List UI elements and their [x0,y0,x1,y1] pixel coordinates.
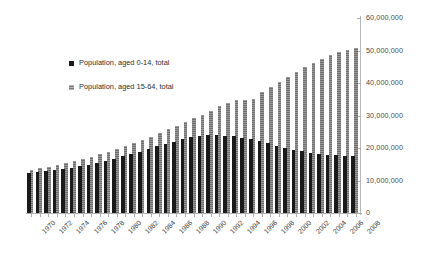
bar-group [121,18,130,213]
bar-aged-0-14 [309,153,313,213]
bar-group [343,18,352,213]
x-tick-label: 1984 [160,219,176,235]
bar-aged-0-14 [326,155,330,213]
bar-aged-0-14 [317,154,321,213]
bar-group [223,18,232,213]
y-tick-label: 20,000,000 [366,144,403,151]
legend-swatch-young-icon [69,61,74,66]
x-tick-label: 1976 [92,219,108,235]
y-tick-mark [357,213,361,214]
x-tick-mark [330,214,331,217]
bar-group [198,18,207,213]
bar-group [27,18,36,213]
x-tick-label: 1972 [58,219,74,235]
bar-aged-0-14 [351,156,355,213]
bar-group [275,18,284,213]
bar-group [232,18,241,213]
bar-group [155,18,164,213]
bar-group [112,18,121,213]
x-tick-mark [211,214,212,217]
x-tick-mark [339,214,340,217]
bar-group [326,18,335,213]
bar-aged-0-14 [87,165,91,213]
x-tick-mark [194,214,195,217]
bar-aged-0-14 [129,154,133,213]
bar-aged-0-14 [292,150,296,213]
bar-aged-0-14 [181,139,185,213]
y-tick-label: 0 [366,209,370,216]
legend-label-young: Population, aged 0-14, total [79,59,169,66]
x-tick-label: 1974 [75,219,91,235]
x-tick-mark [202,214,203,217]
bar-aged-0-14 [198,136,202,213]
bar-aged-0-14 [104,161,108,213]
bar-group [138,18,147,213]
x-tick-label: 2002 [314,219,330,235]
bar-aged-0-14 [70,168,74,214]
bar-aged-0-14 [283,148,287,213]
y-tick-mark [357,18,361,19]
bars-layer [27,18,360,213]
bar-group [78,18,87,213]
bar-aged-0-14 [155,146,159,213]
bar-group [70,18,79,213]
x-tick-label: 1994 [246,219,262,235]
x-tick-label: 1980 [126,219,142,235]
x-tick-label: 1990 [212,219,228,235]
x-tick-mark [176,214,177,217]
x-tick-label: 1982 [143,219,159,235]
bar-aged-0-14 [206,135,210,213]
x-tick-mark [65,214,66,217]
bar-aged-0-14 [95,163,99,213]
x-tick-mark [347,214,348,217]
x-tick-label: 2000 [297,219,313,235]
bar-group [53,18,62,213]
bar-aged-0-14 [223,136,227,213]
x-tick-mark [219,214,220,217]
bar-group [215,18,224,213]
bar-group [172,18,181,213]
x-tick-label: 2004 [331,219,347,235]
y-tick-label: 10,000,000 [366,177,403,184]
bar-aged-0-14 [44,171,48,213]
bar-group [240,18,249,213]
x-tick-mark [296,214,297,217]
y-tick-label: 30,000,000 [366,112,403,119]
bar-chart: 010,000,00020,000,00030,000,00040,000,00… [0,0,426,259]
x-tick-mark [245,214,246,217]
x-tick-mark [236,214,237,217]
bar-group [104,18,113,213]
legend-swatch-older-icon [69,85,74,90]
x-tick-label: 1988 [195,219,211,235]
x-tick-mark [57,214,58,217]
x-tick-mark [228,214,229,217]
x-tick-mark [305,214,306,217]
bar-group [300,18,309,213]
bar-aged-0-14 [266,143,270,213]
bar-aged-0-14 [112,159,116,213]
bar-aged-0-14 [258,141,262,213]
bar-group [44,18,53,213]
bar-group [206,18,215,213]
y-tick-label: 40,000,000 [366,79,403,86]
bar-aged-0-14 [36,172,40,213]
bar-group [95,18,104,213]
bar-aged-0-14 [215,135,219,213]
bar-aged-0-14 [53,170,57,213]
legend-label-older: Population, aged 15-64, total [79,83,174,90]
bar-aged-0-14 [164,144,168,213]
x-tick-mark [74,214,75,217]
bar-group [189,18,198,213]
x-tick-mark [48,214,49,217]
bar-aged-0-14 [343,156,347,213]
bar-group [334,18,343,213]
x-tick-mark [108,214,109,217]
legend-item-older: Population, aged 15-64, total [69,80,174,94]
x-tick-mark [322,214,323,217]
bar-group [36,18,45,213]
bar-aged-0-14 [249,139,253,213]
x-tick-mark [91,214,92,217]
bar-aged-0-14 [147,149,151,213]
bar-group [147,18,156,213]
bar-aged-0-14 [334,155,338,213]
